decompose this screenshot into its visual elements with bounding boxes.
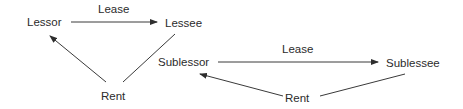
rent-arrow-rent-to-sublessor [200,74,283,96]
lessee-node: Lessee [165,16,202,30]
rent-label-right: Rent [285,91,309,105]
diagram-connectors [0,0,463,109]
lessor-node: Lessor [27,15,62,29]
rent-label-left: Rent [101,89,125,103]
lease-sublease-diagram: Lessor Lease Lessee Rent Sublessor Lease… [0,0,463,109]
rent-line-sublessee-to-rent [320,74,405,96]
rent-arrow-rent-to-lessor [50,36,106,82]
lease-label-right: Lease [282,42,313,56]
sublessor-node: Sublessor [158,55,209,69]
sublessee-node: Sublessee [386,56,440,70]
lease-label-left: Lease [98,2,129,16]
